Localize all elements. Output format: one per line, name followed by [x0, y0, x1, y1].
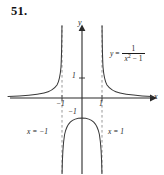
y-tick-label-positive-one: 1 — [72, 72, 76, 80]
figure-container: 51. y x x = −1 x = 1 −1 1 1 − — [0, 0, 164, 174]
x-tick-label-positive-one: 1 — [99, 100, 103, 108]
y-axis — [79, 25, 86, 175]
asymptote-label-left: x = −1 — [27, 128, 48, 136]
asymptote-label-right: x = 1 — [108, 128, 124, 136]
y-tick-label-negative-one: −1 — [68, 108, 77, 116]
equation-denominator-tail: − 1 — [133, 54, 143, 63]
y-axis-label: y — [78, 19, 82, 27]
graph-plot — [0, 0, 164, 174]
curve-left-branch — [8, 26, 62, 97]
x-tick-label-negative-one: −1 — [56, 100, 65, 108]
equation-label: y = 1 x2 − 1 — [110, 45, 145, 62]
x-axis-label: x — [154, 93, 158, 101]
equation-lhs: y — [110, 50, 113, 58]
equation-denominator: x2 − 1 — [122, 53, 146, 62]
equation-equals-sign: = — [115, 50, 119, 58]
equation-denominator-exponent: 2 — [128, 52, 131, 58]
equation-fraction: 1 x2 − 1 — [122, 45, 146, 62]
